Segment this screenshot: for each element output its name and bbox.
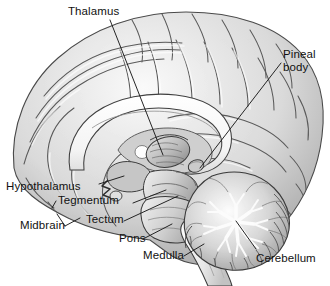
- label-medulla: Medulla: [143, 249, 184, 262]
- label-midbrain: Midbrain: [20, 219, 65, 232]
- label-tegmentum: Tegmentum: [58, 194, 119, 207]
- label-tectum: Tectum: [86, 213, 124, 226]
- label-pineal-body: Pineal body: [283, 48, 316, 74]
- brain-diagram-figure: Thalamus Pineal body Hypothalamus Tegmen…: [0, 0, 330, 286]
- label-thalamus: Thalamus: [68, 5, 119, 18]
- brain-illustration: [0, 0, 330, 286]
- label-cerebellum: Cerebellum: [256, 252, 316, 265]
- label-hypothalamus: Hypothalamus: [6, 180, 81, 193]
- label-pons: Pons: [119, 232, 146, 245]
